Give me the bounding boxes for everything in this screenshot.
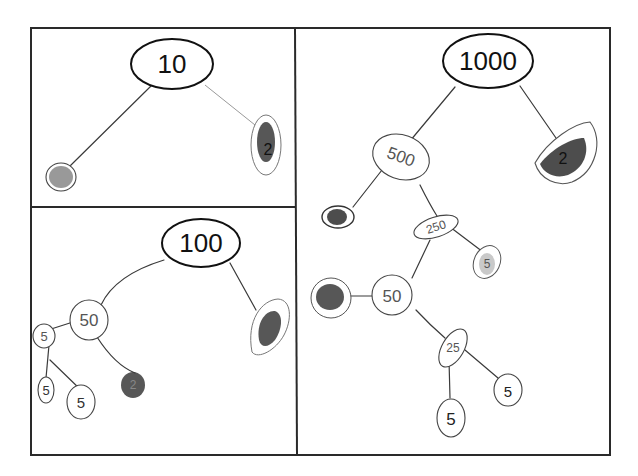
svg-text:5: 5 [504,383,512,400]
leaf-shaded-oval-2: 2 [251,115,281,175]
svg-text:25: 25 [446,341,460,355]
svg-text:5: 5 [484,257,491,271]
edge-100-right [230,263,256,310]
leaf-shaded-circle [46,163,76,191]
edge-500-250 [420,185,437,216]
svg-text:2: 2 [130,378,137,392]
outer-frame [31,28,610,455]
panel-10: 10 2 [46,39,281,191]
edge-50-25 [416,310,445,338]
leaf-5-light-shaded: 5 [468,241,506,283]
root-label-1000: 1000 [459,46,517,76]
diagram-canvas: 10 2 100 50 5 5 5 2 [0,0,638,476]
edge-100-50 [101,260,164,305]
edge-10-left [70,86,151,166]
svg-text:5: 5 [77,394,85,411]
edge-250-50 [412,240,430,278]
svg-text:5: 5 [42,383,49,398]
edge-500-2 [353,170,382,207]
root-label-100: 100 [179,228,222,258]
edge-5-5a [46,345,49,378]
root-label-10: 10 [158,49,187,79]
svg-text:2: 2 [264,141,273,158]
leaf-shaded-left [311,278,351,318]
edge-1000-2 [520,86,556,138]
svg-text:5: 5 [40,329,47,344]
svg-text:5: 5 [446,410,455,429]
edge-250-5 [450,227,483,252]
svg-text:50: 50 [80,311,99,330]
svg-text:50: 50 [383,287,402,306]
panel-100: 100 50 5 5 5 2 [33,219,289,419]
edge-10-right [205,85,255,125]
leaf-shaded-2-left [322,206,354,228]
leaf-shaded-half-oval-2: 2 [535,122,597,184]
leaf-shaded-2: 2 [121,372,145,398]
edge-25-5b [465,350,498,378]
edge-1000-500 [410,87,455,141]
edge-50-2 [97,337,135,373]
panel-1000: 1000 500 250 5 50 25 5 5 2 [311,34,597,437]
vertical-divider [295,28,297,455]
leaf-shaded-oval [251,299,290,355]
svg-text:2: 2 [559,150,568,167]
